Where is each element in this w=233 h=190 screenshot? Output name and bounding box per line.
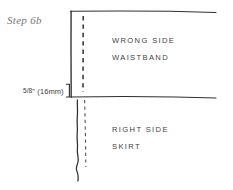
skirt-raw-edge <box>76 100 78 181</box>
seam-allowance-measurement-label: 5/8" (16mm) <box>23 87 64 96</box>
waistband-top-edge <box>71 11 217 13</box>
waist-seam-line <box>71 97 217 98</box>
step-label: Step 6b <box>7 14 42 26</box>
measurement-fraction: 5/8 <box>23 87 32 94</box>
label-skirt: SKIRT <box>112 142 141 151</box>
sewing-diagram-figure: Step 6b 5/8" (16mm) WRONG SIDE WAISTBAND… <box>0 0 233 190</box>
skirt-stitch-line <box>85 100 86 167</box>
label-right-side: RIGHT SIDE <box>112 125 169 134</box>
measurement-units: " (16mm) <box>32 87 63 96</box>
measurement-bracket <box>67 84 70 97</box>
label-waistband: WAISTBAND <box>112 53 169 62</box>
label-wrong-side: WRONG SIDE <box>112 36 175 45</box>
